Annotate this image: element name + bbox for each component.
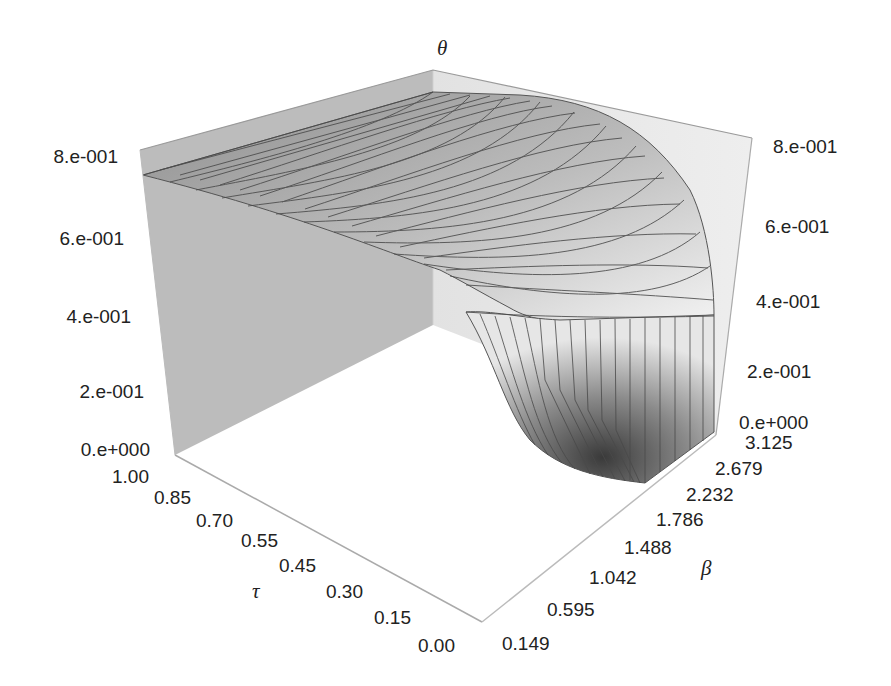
tau-tick: 0.00 (418, 635, 455, 656)
beta-tick: 0.595 (547, 599, 595, 620)
z-tick-left: 2.e-001 (80, 381, 144, 402)
z-tick-right: 8.e-001 (773, 136, 837, 157)
z-tick-right: 4.e-001 (756, 291, 820, 312)
z-tick-left: 0.e+000 (81, 439, 150, 460)
tau-tick: 0.55 (241, 530, 278, 551)
beta-tick: 1.488 (624, 537, 672, 558)
beta-tick: 2.232 (686, 484, 734, 505)
z-tick-left: 4.e-001 (67, 306, 131, 327)
tau-axis-title: τ (252, 579, 261, 603)
z-axis-right-ticks: 8.e-001 6.e-001 4.e-001 2.e-001 0.e+000 (739, 136, 837, 433)
z-axis-left-ticks: 8.e-001 6.e-001 4.e-001 2.e-001 0.e+000 (54, 146, 150, 460)
beta-tick: 2.679 (715, 458, 763, 479)
tau-tick: 0.70 (196, 510, 233, 531)
z-tick-right: 6.e-001 (765, 216, 829, 237)
tau-tick: 0.30 (326, 581, 363, 602)
beta-axis-title: β (700, 556, 712, 580)
surface-plot: 8.e-001 6.e-001 4.e-001 2.e-001 0.e+000 … (0, 0, 891, 686)
z-tick-left: 6.e-001 (60, 228, 124, 249)
tau-tick: 0.15 (374, 607, 411, 628)
z-axis-title: θ (437, 36, 447, 60)
tau-tick: 0.45 (279, 555, 316, 576)
tau-tick: 1.00 (112, 466, 149, 487)
tau-tick: 0.85 (154, 487, 191, 508)
surface-front-drop (466, 312, 714, 483)
z-tick-right: 2.e-001 (747, 361, 811, 382)
beta-tick: 0.149 (502, 633, 550, 654)
beta-tick: 1.786 (656, 509, 704, 530)
z-tick-left: 8.e-001 (54, 146, 118, 167)
tau-axis-ticks: 1.00 0.85 0.70 0.55 0.45 0.30 0.15 0.00 (112, 466, 455, 656)
beta-tick: 1.042 (589, 567, 637, 588)
z-tick-right: 0.e+000 (739, 412, 808, 433)
beta-tick: 3.125 (745, 432, 793, 453)
